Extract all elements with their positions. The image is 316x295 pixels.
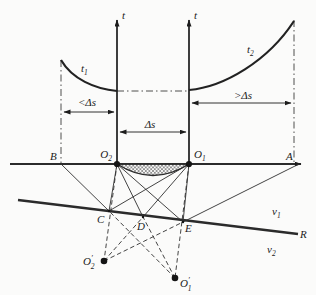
dot-D [142,216,144,218]
label-curve-t2: t2 [247,43,254,58]
label-less-delta-s: <Δs [78,96,96,108]
label-t-axis-right: t [194,9,198,21]
dashed-rays [104,164,189,278]
label-velocity-v1: v1 [272,205,281,220]
label-point-D: D [136,220,145,232]
label-curve-t1: t1 [81,62,88,77]
label-point-O1: O1 [194,148,206,163]
traveltime-curve-t1 [61,60,117,91]
dash-dot-guides [61,20,294,164]
label-point-O2: O2 [100,148,112,163]
dot-C [108,210,110,212]
label-point-O2-prime: O′2 [83,254,95,271]
time-axes [117,20,189,164]
label-velocity-v2: v2 [267,243,276,258]
label-point-E: E [184,222,192,234]
refractor-line [18,200,298,234]
interval-arrows [64,103,291,132]
dot-O2-prime [101,258,108,265]
label-point-A: A [285,150,293,162]
label-greater-delta-s: >Δs [234,89,252,101]
dot-O1-prime [172,275,179,282]
diagram-canvas: t t t1 t2 <Δs Δs >Δs B A O2 O1 C D E O′2… [0,0,316,295]
refraction-diagram: t t t1 t2 <Δs Δs >Δs B A O2 O1 C D E O′2… [0,0,316,295]
dot-O2 [114,161,120,167]
ray-B-C [61,164,109,211]
label-point-C: C [97,213,105,225]
label-delta-s: Δs [144,118,156,130]
dot-E [182,221,184,223]
label-point-B: B [50,150,57,162]
image-ray-O1prime-D [143,217,175,278]
label-point-O1-prime: O′1 [180,276,191,293]
label-t-axis-left: t [122,9,126,21]
label-refractor-R: R [299,228,307,240]
ray-O2-C [109,164,117,211]
dot-O1 [186,161,192,167]
ray-E-A [183,164,299,222]
traveltime-curve-t2 [189,21,294,90]
